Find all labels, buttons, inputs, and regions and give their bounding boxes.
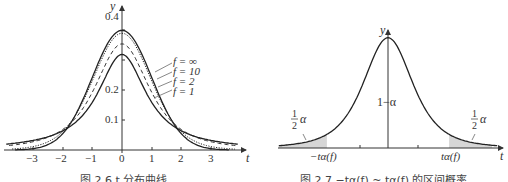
x-tick-label: −1 (85, 152, 97, 164)
x-axis-label: t (246, 151, 250, 165)
x-tick-label: 1 (149, 152, 155, 164)
svg-text:α: α (480, 112, 487, 126)
left-critical-value-label: −tα(f) (310, 150, 337, 163)
left-half-alpha-label: 1 2 α (291, 108, 307, 131)
curve-f-10 (12, 33, 235, 149)
legend-f-1: f = 1 (173, 85, 194, 97)
right-half-alpha-label: 1 2 α (471, 108, 487, 131)
svg-text:α: α (300, 112, 307, 126)
right-critical-value-label: tα(f) (441, 150, 461, 163)
y-tick-label-0-1: 0.1 (105, 113, 119, 125)
x-tick-label: 2 (178, 152, 184, 164)
svg-text:2: 2 (292, 120, 297, 131)
svg-text:1: 1 (472, 108, 477, 119)
y-tick-label-0-4: 0.4 (105, 10, 119, 22)
figure-caption-right: 图 2.7 −tα(f) ~ tα(f) 的区间概率 (300, 171, 467, 182)
right-tail-shading (449, 134, 492, 148)
x-tick-label: 0 (119, 152, 125, 164)
figure-canvas: y t 0.4 0.2 0.1 −3 −2 −1 0 1 2 3 f = ∞ f… (0, 0, 508, 182)
curve-f-2 (9, 44, 238, 146)
svg-text:2: 2 (472, 120, 477, 131)
center-probability-label: 1−α (377, 95, 397, 109)
y-tick-label-0-2: 0.2 (105, 83, 119, 95)
svg-text:1: 1 (292, 108, 297, 119)
t-distribution-chart: y t 0.4 0.2 0.1 −3 −2 −1 0 1 2 3 f = ∞ f… (4, 0, 250, 165)
x-axis-label: t (500, 149, 504, 163)
x-tick-label: −2 (55, 152, 67, 164)
x-tick-label: 3 (208, 152, 214, 164)
x-tick-label: −3 (26, 152, 38, 164)
interval-probability-chart: y t 1−α 1 2 α 1 2 α −tα(f) tα(f) (278, 23, 504, 163)
y-axis-label: y (379, 23, 386, 37)
figure-caption-left: 图 2.6 t 分布曲线 (80, 171, 167, 182)
left-tail-shading (279, 134, 327, 148)
